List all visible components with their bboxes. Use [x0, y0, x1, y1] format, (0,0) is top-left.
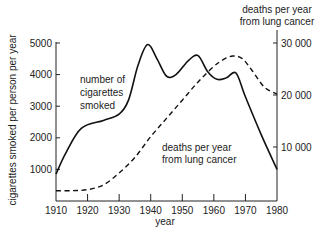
- x-tick-label: 1950: [171, 205, 194, 216]
- x-tick-label: 1970: [234, 205, 257, 216]
- y-tick-label: 2000: [30, 132, 53, 143]
- y-tick-label: 5000: [30, 38, 53, 49]
- y-tick-label: 1000: [30, 164, 53, 175]
- x-tick-label: 1930: [108, 205, 131, 216]
- y2-tick-label: 10 000: [281, 142, 312, 153]
- deaths-annotation: deaths per year from lung cancer: [162, 142, 237, 165]
- y-tick-label: 4000: [30, 69, 53, 80]
- annotation-line: cigarettes: [80, 87, 123, 98]
- annotation-line: number of: [80, 74, 125, 85]
- annotation-line: deaths per year: [162, 142, 232, 153]
- left-axis-title: cigarettes smoked per person per year: [7, 34, 18, 206]
- x-tick-label: 1960: [203, 205, 226, 216]
- annotation-line: from lung cancer: [162, 154, 237, 165]
- x-tick-label: 1910: [45, 205, 68, 216]
- right-axis-title-line1: deaths per year: [242, 4, 312, 15]
- x-axis-title: year: [155, 216, 175, 227]
- y-tick-label: 3000: [30, 101, 53, 112]
- line-chart: deaths per year from lung cancer cigaret…: [0, 0, 320, 240]
- cigarettes-annotation: number of cigarettes smoked: [80, 74, 125, 111]
- right-axis-title-line2: from lung cancer: [240, 16, 315, 27]
- x-tick-label: 1980: [266, 205, 289, 216]
- y2-tick-label: 30 000: [281, 38, 312, 49]
- y2-tick-label: 20 000: [281, 90, 312, 101]
- axes: [56, 30, 277, 201]
- annotation-line: smoked: [80, 100, 115, 111]
- x-tick-label: 1940: [140, 205, 163, 216]
- axis-tick-labels: 1910192019301940195019601970198010002000…: [30, 38, 312, 217]
- x-tick-label: 1920: [76, 205, 99, 216]
- axis-ticks: [56, 43, 277, 201]
